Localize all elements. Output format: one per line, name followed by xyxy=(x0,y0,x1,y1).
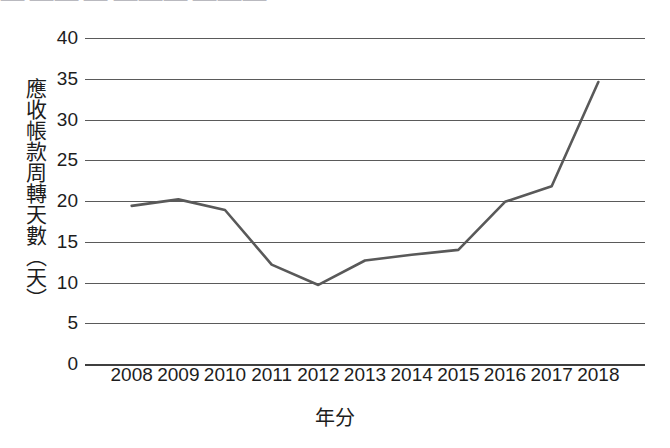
y-axis-tick-label: 15 xyxy=(42,232,78,251)
y-axis-tick-label: 40 xyxy=(42,28,78,47)
plot-area xyxy=(85,38,645,364)
x-axis-tick-label: 2012 xyxy=(292,364,344,386)
x-axis-tick-label: 2009 xyxy=(152,364,204,386)
y-axis-tick-label: 25 xyxy=(42,150,78,169)
x-axis-tick-label: 2014 xyxy=(386,364,438,386)
chart-container: ⸺ ⸺⸺ ⸺ ⸺⸺⸺ ⸺⸺⸺ 應收帳款周轉天數（天） 4035302520151… xyxy=(0,0,670,448)
y-axis-tick-label: 10 xyxy=(42,273,78,292)
x-axis-tick-label: 2016 xyxy=(479,364,531,386)
x-axis-title: 年分 xyxy=(0,402,670,431)
y-axis-tick-label: 5 xyxy=(42,313,78,332)
series-line xyxy=(132,82,599,285)
line-series-accounts-receivable-days xyxy=(85,38,645,364)
x-axis-tick-label: 2018 xyxy=(572,364,624,386)
x-axis-tick-label: 2008 xyxy=(106,364,158,386)
cropped-header-text: ⸺ ⸺⸺ ⸺ ⸺⸺⸺ ⸺⸺⸺ xyxy=(0,0,670,9)
x-axis-tick-label: 2013 xyxy=(339,364,391,386)
x-axis-tick-label: 2011 xyxy=(246,364,298,386)
y-axis-tick-label: 20 xyxy=(42,191,78,210)
y-axis-tick-label: 30 xyxy=(42,110,78,129)
y-axis-tick-label: 35 xyxy=(42,69,78,88)
y-axis-tick-labels: 4035302520151050 xyxy=(40,0,78,448)
x-axis-tick-label: 2017 xyxy=(526,364,578,386)
x-axis-tick-label: 2015 xyxy=(432,364,484,386)
y-axis-tick-label: 0 xyxy=(42,354,78,373)
x-axis-tick-label: 2010 xyxy=(199,364,251,386)
